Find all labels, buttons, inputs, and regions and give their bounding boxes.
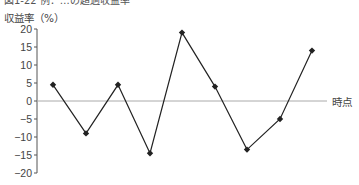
series-line [53, 33, 312, 154]
y-axis: 20151050−5−10−15−20 [14, 23, 37, 179]
series-markers [50, 29, 315, 156]
diamond-marker [179, 29, 185, 35]
diamond-marker [309, 47, 315, 53]
y-tick-label: 0 [26, 95, 32, 107]
y-tick-label: −10 [14, 131, 32, 143]
y-tick-label: 5 [26, 77, 32, 89]
diamond-marker [147, 150, 153, 156]
y-tick-label: −20 [14, 167, 32, 179]
diamond-marker [212, 83, 218, 89]
y-tick-label: 10 [20, 59, 32, 71]
diamond-marker [115, 82, 121, 88]
y-tick-label: 20 [20, 23, 32, 35]
y-tick-label: 15 [20, 41, 32, 53]
y-tick-label: −15 [14, 149, 32, 161]
y-tick-label: −5 [20, 113, 32, 125]
line-chart: 20151050−5−10−15−20 [0, 0, 359, 185]
